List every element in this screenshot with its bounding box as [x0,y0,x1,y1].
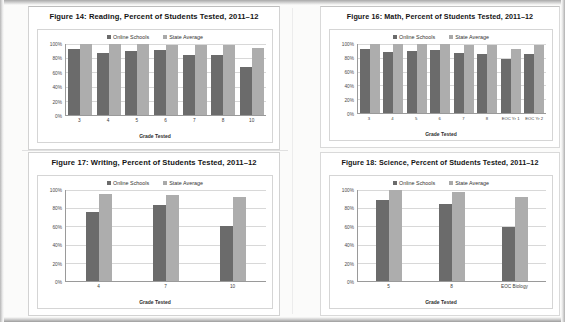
x-axis-tick-label: 10 [199,284,266,294]
x-axis-tick-label: 5 [357,284,420,294]
legend-entry-online: Online Schools [107,34,149,40]
y-axis-tick-label: 0% [55,280,62,285]
chart-legend: Online Schools State Average [330,30,552,40]
x-axis-tick-label: 5 [404,116,428,126]
bar-group [523,44,547,113]
bar-state-average [109,44,121,115]
chart-fig18: Online Schools State Average 100%80%60%4… [329,175,553,309]
bar-group [237,44,266,115]
legend-entry-state: State Average [163,34,203,40]
page-edge-bottom [0,317,565,322]
bar-group [452,44,476,113]
y-axis-tick-label: 100% [50,188,62,193]
plot-wrapper: 100%80%60%40%20%0% 34567810 Grade Tested [38,44,272,142]
x-axis-tick-label: 6 [151,118,180,128]
x-axis-tick-label: 3 [65,118,94,128]
x-axis-tick-label: 10 [237,118,266,128]
bar-state-average [370,44,380,113]
plot-wrapper: 100%80%60%40%20%0% 345678EOC Yr 1EOC Yr … [330,44,552,140]
bar-state-average [534,45,544,113]
bar-group [180,44,209,115]
bar-online-schools [524,54,534,113]
figure-panel-fig17: Figure 17: Writing, Percent of Students … [28,152,280,316]
x-axis-tick-label: EOC Biology [483,284,546,294]
x-axis-tick-label: 3 [357,116,381,126]
bar-group [483,190,546,281]
bars-row [358,190,546,281]
bar-group [476,44,500,113]
x-axis-tick-label: 4 [65,284,132,294]
bars-row [66,44,266,115]
bar-state-average [195,45,207,115]
y-axis-tick-label: 40% [52,243,62,248]
bar-online-schools [477,54,487,113]
legend-entry-online: Online Schools [393,180,435,186]
plot-area [357,44,546,114]
x-axis-tick-label: 4 [381,116,405,126]
bars-row [358,44,546,113]
legend-entry-online: Online Schools [393,34,435,40]
bar-state-average [511,49,521,113]
y-axis-tick-label: 60% [52,70,62,75]
y-axis-tick-label: 60% [344,70,354,75]
bar-group [358,44,382,113]
legend-label-online: Online Schools [113,180,149,186]
y-axis-tick-label: 80% [52,206,62,211]
legend-label-online: Online Schools [399,180,435,186]
x-axis-title: Grade Tested [38,299,272,305]
y-axis-tick-label: 60% [52,224,62,229]
plot-wrapper: 100%80%60%40%20%0% 4710 Grade Tested [38,190,272,308]
y-axis: 100%80%60%40%20%0% [334,44,356,114]
bar-online-schools [154,50,166,115]
x-axis-tick-label: 7 [132,284,199,294]
bar-state-average [137,44,149,115]
bar-group [382,44,406,113]
x-axis-tick-label: 8 [475,116,499,126]
bar-group [123,44,152,115]
legend-swatch-online-icon [107,35,111,39]
bar-state-average [166,45,178,115]
x-axis-title: Grade Tested [330,299,552,305]
bar-state-average [166,195,179,281]
x-axis-tick-label: 7 [452,116,476,126]
bar-state-average [393,44,403,113]
bar-state-average [440,44,450,113]
x-axis-title: Grade Tested [330,131,552,137]
bar-state-average [464,45,474,113]
x-axis-tick-label: 5 [122,118,151,128]
x-axis-labels: 345678EOC Yr 1EOC Yr 2 [357,116,546,126]
bar-state-average [515,197,528,281]
bar-online-schools [407,51,417,113]
legend-entry-state: State Average [163,180,203,186]
figure-title: Figure 18: Science, Percent of Students … [321,153,559,167]
bar-online-schools [125,51,137,115]
bar-state-average [80,44,92,115]
legend-label-state: State Average [169,34,203,40]
figure-panel-fig16: Figure 16: Math, Percent of Students Tes… [320,6,560,148]
legend-swatch-state-icon [449,35,453,39]
legend-swatch-state-icon [449,181,453,185]
legend-swatch-state-icon [163,181,167,185]
bar-online-schools [439,204,452,281]
bar-group [152,44,181,115]
bar-online-schools [502,227,515,281]
legend-label-state: State Average [455,180,489,186]
chart-legend: Online Schools State Average [38,176,272,186]
y-axis-tick-label: 0% [347,280,354,285]
chart-fig17: Online Schools State Average 100%80%60%4… [37,175,273,309]
legend-label-state: State Average [169,180,203,186]
legend-swatch-online-icon [393,181,397,185]
figure-title: Figure 14: Reading, Percent of Students … [29,7,279,21]
y-axis-tick-label: 80% [344,206,354,211]
legend-swatch-online-icon [107,181,111,185]
legend-entry-state: State Average [449,34,489,40]
bar-online-schools [360,49,370,113]
bar-online-schools [86,212,99,281]
bar-state-average [417,44,427,113]
y-axis-tick-label: 20% [52,261,62,266]
chart-fig14: Online Schools State Average 100%80%60%4… [37,29,273,143]
y-axis-tick-label: 80% [344,56,354,61]
y-axis-tick-label: 0% [55,114,62,119]
bar-online-schools [430,50,440,113]
y-axis-tick-label: 20% [344,98,354,103]
